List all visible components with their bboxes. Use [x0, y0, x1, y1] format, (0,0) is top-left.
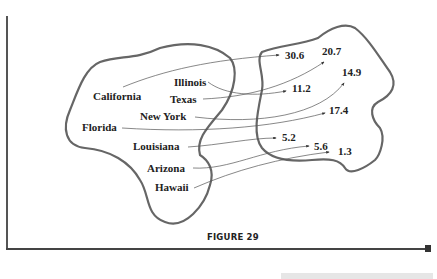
value-30-6: 30.6: [285, 49, 304, 61]
value-5-6: 5.6: [314, 140, 328, 152]
label-california: California: [93, 90, 141, 102]
label-louisiana: Louisiana: [133, 140, 179, 152]
label-hawaii: Hawaii: [155, 181, 189, 193]
label-florida: Florida: [82, 121, 117, 133]
value-11-2: 11.2: [292, 82, 311, 94]
domain-set-outline: [66, 44, 235, 223]
figure-caption: FIGURE 29: [207, 232, 259, 242]
label-arizona: Arizona: [147, 162, 185, 174]
value-17-4: 17.4: [329, 104, 348, 116]
value-20-7: 20.7: [322, 45, 341, 57]
value-14-9: 14.9: [342, 66, 361, 78]
label-illinois: Illinois: [174, 76, 206, 88]
label-texas: Texas: [170, 93, 197, 105]
label-new-york: New York: [140, 110, 186, 122]
value-5-2: 5.2: [282, 131, 296, 143]
value-1-3: 1.3: [338, 145, 352, 157]
